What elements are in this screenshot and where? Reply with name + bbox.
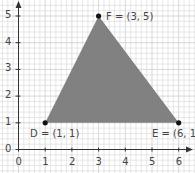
y-tick-label: 5 [5,10,11,20]
plot-canvas [0,0,195,173]
point-f [96,13,101,18]
point-e [176,120,181,125]
point-label-d: D = (1, 1) [30,129,79,139]
coordinate-diagram: F = (3, 5) D = (1, 1) E = (6, 1) 0123456… [0,0,195,173]
y-tick-label: 1 [5,117,11,127]
point-label-e: E = (6, 1) [152,129,195,139]
x-tick-label: 6 [176,157,182,167]
x-tick-label: 0 [16,157,22,167]
y-axis-arrow-icon [16,1,22,8]
point-d [43,120,48,125]
point-label-f: F = (3, 5) [106,12,153,22]
x-tick-label: 5 [149,157,155,167]
x-tick-label: 3 [96,157,102,167]
x-tick-label: 1 [42,157,48,167]
y-tick-label: 3 [5,63,11,73]
y-tick-label: 0 [5,144,11,154]
y-tick-label: 4 [5,37,11,47]
y-tick-label: 2 [5,90,11,100]
x-tick-label: 4 [122,157,128,167]
x-tick-label: 2 [69,157,75,167]
